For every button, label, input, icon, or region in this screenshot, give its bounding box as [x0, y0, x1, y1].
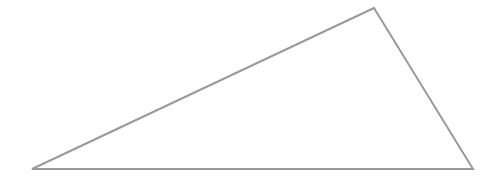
- diagram-canvas: [0, 0, 494, 178]
- triangle-shape: [32, 8, 473, 169]
